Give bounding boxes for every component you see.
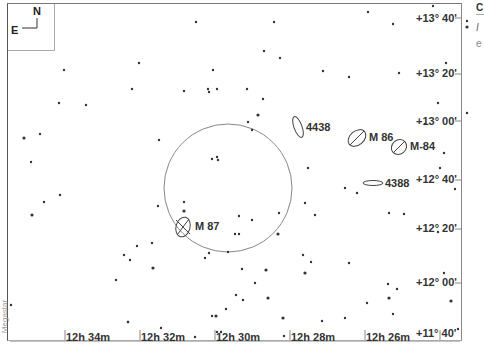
galaxy-label-4438: 4438 — [306, 121, 330, 133]
credit-label: Megastar — [0, 300, 9, 333]
galaxy-label-m87: M 87 — [195, 220, 219, 232]
side-panel-line2: e — [476, 38, 482, 49]
compass-arrow-icon — [22, 18, 37, 28]
dec-label: +12° 00' — [416, 276, 457, 288]
compass: N E — [8, 4, 55, 51]
galaxy-label-m86: M 86 — [369, 131, 393, 143]
side-panel-divider — [476, 14, 484, 15]
ra-label: 12h 30m — [216, 331, 260, 343]
chart-frame — [7, 3, 462, 341]
galaxy-label-4388: 4388 — [385, 177, 409, 189]
ra-label: 12h 28m — [291, 331, 335, 343]
ra-label: 12h 26m — [366, 331, 410, 343]
dec-label: +13° 20' — [416, 67, 457, 79]
side-panel-title: C — [476, 2, 483, 13]
ra-label: 12h 34m — [66, 331, 110, 343]
dec-label: +13° 40' — [416, 12, 457, 24]
dec-label: +12° 20' — [416, 222, 457, 234]
galaxy-label-m84: M-84 — [410, 140, 435, 152]
dec-label: +13° 00' — [416, 115, 457, 127]
side-panel-line1: I — [476, 22, 479, 33]
dec-label: +11° 40' — [416, 327, 456, 339]
dec-label: +12° 40' — [416, 173, 457, 185]
ra-label: 12h 32m — [141, 331, 185, 343]
